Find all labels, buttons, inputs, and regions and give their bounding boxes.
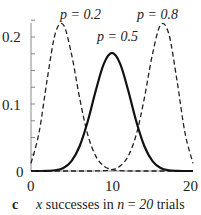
series-p05-line <box>31 53 193 171</box>
binomial-chart: 0.2 0.1 0 0 10 20 p = 0.2 p = 0.5 p = 0.… <box>0 0 201 215</box>
panel-label: c <box>12 197 18 212</box>
y-tick-label: 0.2 <box>2 29 21 45</box>
y-tick-label: 0 <box>16 164 24 180</box>
series-p08-line <box>31 23 193 171</box>
series-p02-line <box>31 23 193 171</box>
x-tick-label: 20 <box>183 178 198 194</box>
y-tick-label: 0.1 <box>2 97 21 113</box>
x-tick-label: 0 <box>27 178 35 194</box>
annotation-p02: p = 0.2 <box>59 7 101 22</box>
x-axis-label: x successes in n = 20 trials <box>35 197 185 212</box>
annotation-p08: p = 0.8 <box>136 7 178 22</box>
y-axis <box>31 20 35 171</box>
annotation-p05: p = 0.5 <box>96 29 138 44</box>
x-tick-label: 10 <box>105 178 120 194</box>
